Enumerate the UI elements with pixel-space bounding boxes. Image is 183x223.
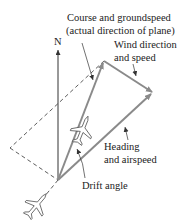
wind-vector <box>104 61 152 92</box>
course-label-line1: Course and groundspeed <box>67 12 172 23</box>
wind-label-line1: Wind direction <box>114 39 178 50</box>
heading-label-line2: and airspeed <box>104 154 158 165</box>
course-label-line2: (actual direction of plane) <box>66 25 175 37</box>
north-label: N <box>54 36 62 47</box>
dashed-line-bottom <box>10 148 58 180</box>
heading-leader <box>125 127 128 140</box>
vector-diagram: N Course and groundspeed (actual directi… <box>0 0 183 223</box>
drift-angle-label: Drift angle <box>82 180 128 191</box>
airplane-icon <box>19 187 55 223</box>
wind-label-line2: and speed <box>114 52 156 63</box>
drift-leader <box>77 149 85 178</box>
wind-leader <box>133 64 136 76</box>
heading-label-line1: Heading <box>104 141 140 152</box>
course-vector <box>58 63 103 180</box>
heading-vector <box>58 94 151 180</box>
course-leader <box>82 43 93 80</box>
